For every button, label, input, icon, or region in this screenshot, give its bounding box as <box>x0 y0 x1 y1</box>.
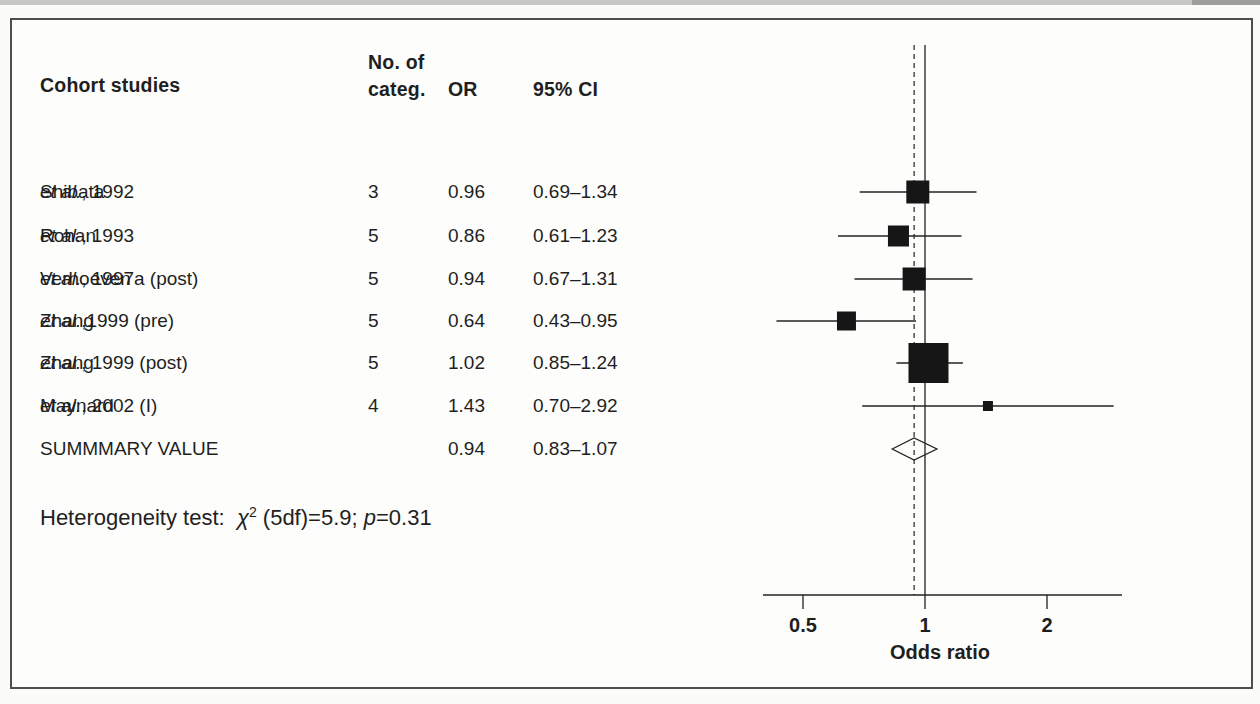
or-square-marker <box>837 312 856 331</box>
or-square-marker <box>903 268 926 291</box>
forest-plot: 0.512 <box>0 0 1260 704</box>
or-square-marker <box>888 226 909 247</box>
or-square-marker <box>908 343 948 383</box>
or-square-marker <box>906 181 929 204</box>
x-axis-tick-label: 0.5 <box>789 614 817 636</box>
or-square-marker <box>983 401 993 411</box>
x-axis-tick-label: 1 <box>919 614 930 636</box>
figure-page: Cohort studies No. of categ. OR 95% CI S… <box>0 0 1260 704</box>
x-axis-tick-label: 2 <box>1041 614 1052 636</box>
x-axis-label: Odds ratio <box>840 641 1040 664</box>
